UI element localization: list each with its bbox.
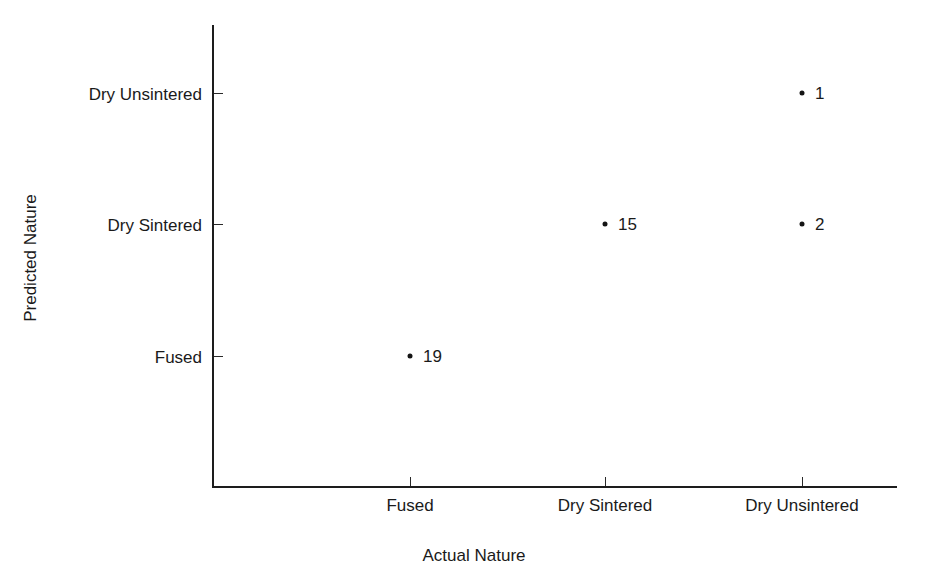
data-point-label: 1 [815, 85, 824, 102]
x-axis-tick-dry-sintered [605, 477, 606, 486]
data-point-label: 15 [618, 216, 637, 233]
data-point [408, 354, 413, 359]
data-point-label: 2 [815, 216, 824, 233]
x-axis-tick-dry-unsintered [802, 477, 803, 486]
y-axis-tick-fused [214, 356, 223, 357]
y-axis-line [212, 25, 214, 488]
x-axis-tick-fused [410, 477, 411, 486]
x-axis-label-dry-unsintered: Dry Unsintered [745, 497, 858, 514]
x-axis-title: Actual Nature [0, 546, 948, 566]
y-axis-label-dry-unsintered: Dry Unsintered [0, 86, 202, 103]
confusion-scatter-chart: Dry Unsintered Dry Sintered Fused Fused … [0, 0, 948, 580]
data-point [800, 91, 805, 96]
y-axis-label-text: Dry Unsintered [0, 86, 202, 103]
x-axis-label-fused: Fused [386, 497, 433, 514]
x-axis-label-dry-sintered: Dry Sintered [558, 497, 652, 514]
x-axis-line [212, 486, 897, 488]
data-point [800, 222, 805, 227]
y-axis-title: Predicted Nature [21, 148, 41, 368]
y-axis-tick-dry-unsintered [214, 93, 223, 94]
y-axis-tick-dry-sintered [214, 224, 223, 225]
data-point-label: 19 [423, 348, 442, 365]
data-point [603, 222, 608, 227]
